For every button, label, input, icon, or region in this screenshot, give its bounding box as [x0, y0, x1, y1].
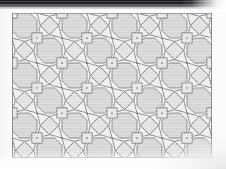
tile-vertex: [161, 37, 163, 39]
scanned-page: [0, 0, 226, 169]
tile-vertex: [36, 62, 38, 64]
tile-vertex: [111, 137, 113, 139]
corner-vignette: [156, 135, 226, 169]
tile-vertex: [136, 112, 138, 114]
tile-vertex: [61, 137, 63, 139]
tile-vertex: [136, 62, 138, 64]
tile-vertex: [186, 62, 188, 64]
tile-vertex: [186, 87, 188, 89]
tile-vertex: [86, 137, 88, 139]
tile-vertex: [36, 137, 38, 139]
tile-vertex: [86, 87, 88, 89]
tile-vertex: [186, 37, 188, 39]
tile-vertex: [61, 112, 63, 114]
tile-vertex: [111, 112, 113, 114]
tile-vertex: [36, 112, 38, 114]
tile-vertex: [161, 112, 163, 114]
tile-vertex: [111, 37, 113, 39]
tile-vertex: [161, 62, 163, 64]
tile-vertex: [36, 87, 38, 89]
tile-vertex: [86, 37, 88, 39]
tile-vertex: [61, 87, 63, 89]
tile-vertex: [111, 87, 113, 89]
tile-vertex: [61, 62, 63, 64]
tile-vertex: [136, 87, 138, 89]
tile-vertex: [136, 137, 138, 139]
tile-vertex: [161, 87, 163, 89]
tile-vertex: [61, 37, 63, 39]
tile-vertex: [86, 62, 88, 64]
tile-vertex: [36, 37, 38, 39]
tile-vertex: [186, 112, 188, 114]
tile-vertex: [111, 62, 113, 64]
tile-vertex: [86, 112, 88, 114]
tile-vertex: [136, 37, 138, 39]
scanner-band-taper: [180, 0, 226, 12]
